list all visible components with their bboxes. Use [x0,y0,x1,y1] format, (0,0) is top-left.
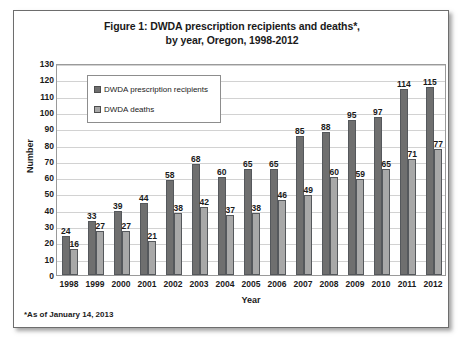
x-axis-tick-label: 2004 [216,279,235,289]
bar-recipients: 114 [400,89,408,275]
bar-deaths: 77 [434,149,442,275]
x-axis-tick-label: 2007 [294,279,313,289]
bar-group: 9559 [346,65,367,275]
bar-deaths: 27 [96,231,104,275]
bar-value-label: 77 [433,139,442,149]
x-axis-tick-label: 2001 [138,279,157,289]
y-axis-tick-label: 110 [28,92,54,102]
x-axis-tick-label: 1999 [86,279,105,289]
bar-deaths: 38 [174,213,182,275]
y-axis-tick-label: 130 [28,59,54,69]
legend-swatch-icon-deaths [94,106,101,113]
bar-value-label: 37 [225,205,234,215]
bar-value-label: 49 [303,185,312,195]
bar-value-label: 60 [217,167,226,177]
bar-value-label: 21 [147,231,156,241]
bar-value-label: 46 [277,190,286,200]
bar-value-label: 65 [243,159,252,169]
bar-deaths: 38 [252,213,260,275]
legend-label-recipients: DWDA prescription recipients [104,85,208,94]
y-axis-tick-label: 50 [28,189,54,199]
y-axis-tick-label: 0 [28,271,54,281]
bar-value-label: 24 [61,226,70,236]
x-axis-tick-label: 2003 [190,279,209,289]
bar-value-label: 59 [355,169,364,179]
bar-group: 9765 [372,65,393,275]
y-axis-tick-label: 80 [28,141,54,151]
x-axis-tick-label: 2006 [268,279,287,289]
bar-value-label: 71 [407,149,416,159]
bar-value-label: 44 [139,193,148,203]
bar-recipients: 97 [374,117,382,275]
bar-value-label: 58 [165,170,174,180]
figure-title-line-1: Figure 1: DWDA prescription recipients a… [104,20,360,32]
y-axis-tick-label: 100 [28,108,54,118]
bar-group: 6546 [268,65,289,275]
bar-group: 8549 [294,65,315,275]
x-axis-tick-label: 2002 [164,279,183,289]
bar-recipients: 58 [166,180,174,275]
y-axis-tick-label: 20 [28,238,54,248]
bar-value-label: 38 [173,203,182,213]
bar-deaths: 16 [70,249,78,275]
bar-value-label: 115 [423,77,437,87]
x-axis-tick-label: 2008 [320,279,339,289]
y-axis-tick-label: 60 [28,173,54,183]
x-axis-tick-label: 2012 [424,279,443,289]
x-axis-tick-label: 2009 [346,279,365,289]
y-axis-tick-label: 120 [28,75,54,85]
y-axis-tick-label: 10 [28,255,54,265]
y-axis-tick-label: 90 [28,124,54,134]
bar-deaths: 59 [356,179,364,275]
bar-recipients: 85 [296,136,304,275]
figure-title-line-2: by year, Oregon, 1998-2012 [14,33,450,47]
bar-value-label: 42 [199,197,208,207]
figure-title: Figure 1: DWDA prescription recipients a… [14,19,450,47]
figure-panel: Figure 1: DWDA prescription recipients a… [13,10,449,328]
bar-recipients: 95 [348,120,356,275]
legend-label-deaths: DWDA deaths [104,105,154,114]
bar-value-label: 65 [381,159,390,169]
bar-value-label: 27 [95,221,104,231]
bar-deaths: 37 [226,215,234,275]
bar-value-label: 60 [329,167,338,177]
bar-value-label: 95 [347,110,356,120]
bar-deaths: 21 [148,241,156,275]
bar-value-label: 114 [397,79,411,89]
bar-recipients: 68 [192,164,200,275]
bar-deaths: 71 [408,159,416,275]
bar-recipients: 65 [244,169,252,275]
bar-group: 11577 [424,65,445,275]
legend-item-deaths: DWDA deaths [94,102,212,116]
bar-recipients: 65 [270,169,278,275]
x-axis-tick-labels: 1998199920002001200220032004200520062007… [56,279,446,293]
bar-recipients: 60 [218,177,226,275]
bar-value-label: 68 [191,154,200,164]
bar-deaths: 60 [330,177,338,275]
bar-group: 2416 [60,65,81,275]
bar-group: 6538 [242,65,263,275]
bar-value-label: 27 [121,221,130,231]
legend-item-recipients: DWDA prescription recipients [94,82,212,96]
y-axis-tick-labels: 0102030405060708090100110120130 [28,64,54,276]
bar-value-label: 85 [295,126,304,136]
y-axis-tick-label: 30 [28,222,54,232]
bar-value-label: 65 [269,159,278,169]
bar-deaths: 65 [382,169,390,275]
bar-value-label: 39 [113,201,122,211]
plot-area: 2416332739274421583868426037653865468549… [56,64,446,276]
bar-deaths: 42 [200,207,208,275]
bar-recipients: 88 [322,132,330,276]
x-axis-tick-label: 2011 [398,279,416,289]
x-axis-tick-label: 2010 [372,279,391,289]
legend-swatch-icon-recipients [94,86,101,93]
bar-group: 8860 [320,65,341,275]
bar-value-label: 16 [69,239,78,249]
bar-deaths: 27 [122,231,130,275]
bar-value-label: 38 [251,203,260,213]
bar-deaths: 46 [278,200,286,275]
bar-value-label: 88 [321,122,330,132]
x-axis-tick-label: 1998 [60,279,79,289]
x-axis-tick-label: 2000 [112,279,131,289]
figure-footnote: *As of January 14, 2013 [24,310,113,319]
